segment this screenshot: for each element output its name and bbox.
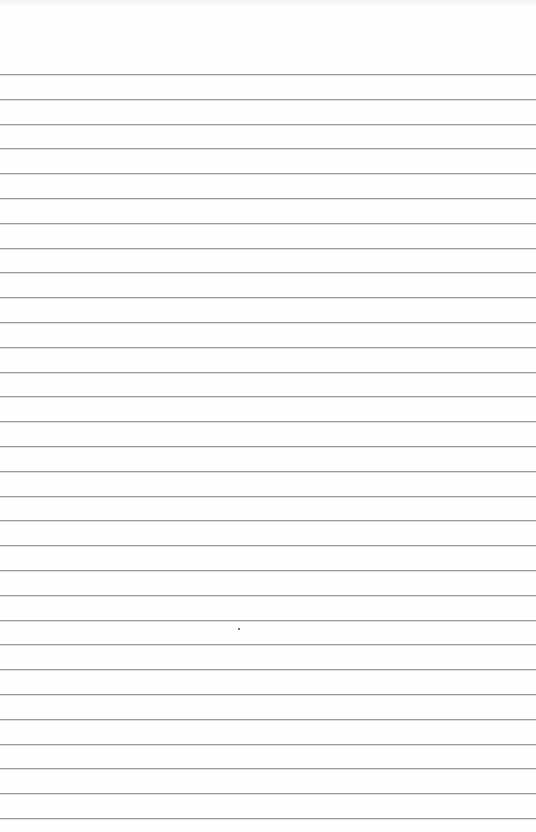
ruled-line [0, 520, 536, 521]
ruled-line [0, 396, 536, 397]
ruled-line [0, 347, 536, 348]
ruled-line [0, 545, 536, 546]
ruled-line [0, 173, 536, 174]
ink-dot [238, 628, 240, 630]
ruled-line [0, 421, 536, 422]
ruled-line [0, 744, 536, 745]
ruled-line [0, 793, 536, 794]
ruled-line [0, 669, 536, 670]
ruled-line [0, 74, 536, 75]
ruled-line [0, 471, 536, 472]
ruled-line [0, 297, 536, 298]
ruled-line [0, 694, 536, 695]
ruled-line [0, 496, 536, 497]
ruled-line [0, 322, 536, 323]
ruled-line [0, 595, 536, 596]
ruled-line [0, 148, 536, 149]
ruled-line [0, 198, 536, 199]
ruled-line [0, 223, 536, 224]
ruled-line [0, 644, 536, 645]
ruled-line [0, 719, 536, 720]
ruled-line [0, 818, 536, 819]
ruled-line [0, 124, 536, 125]
ruled-line [0, 99, 536, 100]
ruled-line [0, 272, 536, 273]
ruled-line [0, 620, 536, 621]
ruled-line [0, 768, 536, 769]
ruled-line [0, 570, 536, 571]
ruled-lines [0, 0, 536, 832]
ruled-line [0, 248, 536, 249]
notepad-page [0, 0, 536, 832]
ruled-line [0, 446, 536, 447]
ruled-line [0, 372, 536, 373]
